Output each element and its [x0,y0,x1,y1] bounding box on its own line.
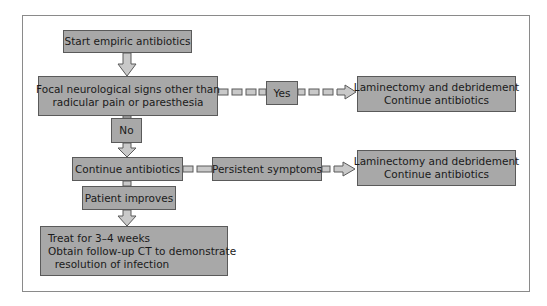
node-label: Laminectomy and debridement [354,81,519,94]
node-label: Continue antibiotics [75,163,180,176]
node-label: Treat for 3–4 weeks [48,232,150,245]
arrow-down-icon [118,143,136,157]
node-label: radicular pain or paresthesia [52,96,203,109]
edge-label-no: No [111,118,142,143]
node-label: Continue antibiotics [384,94,489,107]
node-label: Focal neurological signs other than [36,83,220,96]
node-label: Laminectomy and debridement [354,155,519,168]
node-treat-follow-up: Treat for 3–4 weeks Obtain follow-up CT … [40,226,228,276]
node-label: Yes [274,87,291,100]
node-label: Persistent symptoms [212,163,322,176]
node-laminectomy-1: Laminectomy and debridement Continue ant… [357,76,516,112]
arrow-down-icon [118,210,136,226]
node-label: Obtain follow-up CT to demonstrate [48,245,236,258]
node-focal-neurological-signs: Focal neurological signs other than radi… [38,76,218,116]
edge-label-persistent-symptoms: Persistent symptoms [212,157,322,181]
node-laminectomy-2: Laminectomy and debridement Continue ant… [357,150,516,186]
node-label: resolution of infection [48,258,169,271]
node-label: Start empiric antibiotics [64,35,190,48]
edge-label-patient-improves: Patient improves [82,186,176,210]
node-continue-antibiotics: Continue antibiotics [72,157,183,181]
arrow-right-icon [334,162,355,176]
node-start-empiric-antibiotics: Start empiric antibiotics [63,30,192,53]
node-label: Patient improves [85,192,173,205]
node-label: Continue antibiotics [384,168,489,181]
arrow-down-icon [118,53,136,76]
node-label: No [119,124,133,137]
edge-label-yes: Yes [266,81,298,105]
